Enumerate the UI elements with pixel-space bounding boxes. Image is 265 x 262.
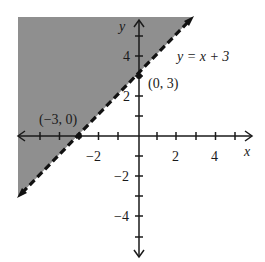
tick-label-x-2: 2: [172, 149, 179, 164]
tick-label-y-neg4: −4: [114, 209, 129, 224]
tick-label-x-4: 4: [211, 149, 218, 164]
tick-label-x-neg2: −2: [86, 149, 101, 164]
x-axis-label: x: [243, 144, 251, 159]
equation-label: y = x + 3: [175, 49, 229, 64]
tick-label-y-4: 4: [123, 49, 130, 64]
equation-text: y = x + 3: [175, 49, 229, 64]
y-axis: [134, 20, 144, 257]
y-axis-label: y: [117, 19, 126, 34]
point-0-3: [136, 73, 142, 79]
tick-label-y-2: 2: [123, 89, 130, 104]
point-label-0-3: (0, 3): [148, 76, 179, 92]
point-neg3-0: [76, 133, 82, 139]
point-label-neg3-0: (−3, 0): [39, 112, 78, 128]
inequality-graph: y x −2 2 4 4 2 −2 −4 y = x + 3 (0, 3) (−…: [0, 0, 265, 262]
tick-label-y-neg2: −2: [114, 169, 129, 184]
shaded-region: [18, 17, 193, 197]
